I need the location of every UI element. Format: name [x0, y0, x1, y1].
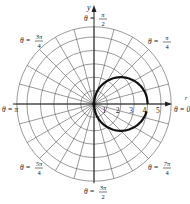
svg-text:π: π [165, 34, 169, 41]
grid-spoke [94, 37, 133, 104]
radial-tick-label: 5 [156, 106, 160, 115]
svg-text:θ =: θ = [20, 163, 31, 172]
grid-spoke [55, 37, 94, 104]
grid-spoke [19, 104, 94, 124]
svg-text:3π: 3π [35, 33, 43, 40]
radial-tick-label: 4 [143, 106, 147, 115]
angle-label-a0: θ = 0 [174, 105, 190, 114]
y-axis-label: y [86, 3, 91, 12]
svg-text:θ =: θ = [84, 14, 95, 23]
svg-text:4: 4 [165, 169, 169, 176]
polar-chart: yr 12345 θ = 0θ =π2θ =π4θ =3π4θ = πθ =5π… [0, 0, 190, 204]
grid-spoke [27, 104, 94, 143]
angle-label-a270: θ =3π2 [84, 184, 107, 200]
svg-text:θ =: θ = [148, 163, 159, 172]
svg-text:θ =: θ = [20, 36, 31, 45]
svg-text:5π: 5π [36, 160, 43, 167]
svg-text:θ =: θ = [148, 37, 159, 46]
grid-spoke [94, 84, 169, 104]
grid-spoke [19, 84, 94, 104]
svg-text:θ = π: θ = π [2, 105, 18, 114]
grid-spoke [27, 65, 94, 104]
grid-spoke [74, 29, 94, 104]
svg-text:θ =: θ = [84, 187, 95, 196]
angle-label-a90: θ =π2 [84, 11, 107, 27]
angle-label-a315: θ =7π4 [148, 160, 171, 176]
radial-tick-label: 2 [116, 106, 120, 115]
radial-tick-label: 1 [102, 106, 106, 115]
svg-text:2: 2 [101, 193, 104, 200]
svg-text:4: 4 [37, 169, 41, 176]
grid-spoke [74, 104, 94, 179]
angle-label-a135: θ =3π4 [20, 33, 43, 49]
grid-spoke [94, 104, 133, 171]
svg-text:π: π [101, 11, 105, 18]
angle-label-a225: θ =5π4 [20, 160, 43, 176]
radial-tick-label: 3 [129, 106, 133, 115]
svg-text:3π: 3π [99, 184, 107, 191]
r-axis-label: r [185, 95, 188, 101]
y-arrow-icon [92, 5, 97, 12]
svg-text:θ = 0: θ = 0 [174, 105, 190, 114]
svg-text:7π: 7π [164, 160, 171, 167]
grid-spoke [55, 104, 94, 171]
angle-label-a45: θ =π4 [148, 34, 171, 50]
grid-spoke [94, 65, 161, 104]
svg-text:2: 2 [101, 20, 104, 27]
angle-label-a180: θ = π [2, 105, 18, 114]
svg-text:4: 4 [165, 43, 169, 50]
